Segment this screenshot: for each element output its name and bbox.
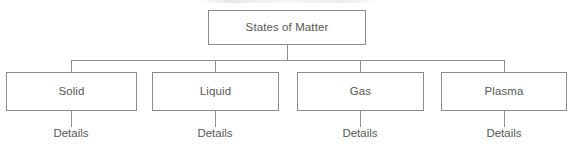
- connector-stub-solid-details: [71, 111, 72, 127]
- leaf-label-gas-details[interactable]: Details: [342, 128, 377, 140]
- leaf-label-liquid-details[interactable]: Details: [197, 128, 232, 140]
- connector-stub-gas-details: [360, 111, 361, 127]
- connector-drop-solid: [71, 60, 72, 72]
- leaf-label-solid-details[interactable]: Details: [53, 128, 88, 140]
- top-edge-artifact: [196, 0, 376, 3]
- node-child-label: Solid: [58, 86, 84, 98]
- node-child-label: Plasma: [485, 86, 524, 98]
- node-child-liquid[interactable]: Liquid: [152, 72, 279, 111]
- connector-drop-liquid: [215, 60, 216, 72]
- connector-drop-gas: [360, 60, 361, 72]
- connector-drop-plasma: [504, 60, 505, 72]
- connector-stub-plasma-details: [504, 111, 505, 127]
- node-root-states-of-matter[interactable]: States of Matter: [208, 10, 366, 45]
- connector-root-stem: [287, 45, 288, 60]
- diagram-canvas: States of Matter Solid Liquid Gas Plasma…: [0, 0, 573, 149]
- node-child-label: Liquid: [200, 86, 231, 98]
- connector-horizontal-bus: [71, 60, 505, 61]
- node-child-plasma[interactable]: Plasma: [441, 72, 567, 111]
- node-root-label: States of Matter: [246, 22, 329, 34]
- node-child-solid[interactable]: Solid: [6, 72, 137, 111]
- node-child-label: Gas: [350, 86, 371, 98]
- leaf-label-plasma-details[interactable]: Details: [486, 128, 521, 140]
- connector-stub-liquid-details: [215, 111, 216, 127]
- node-child-gas[interactable]: Gas: [297, 72, 424, 111]
